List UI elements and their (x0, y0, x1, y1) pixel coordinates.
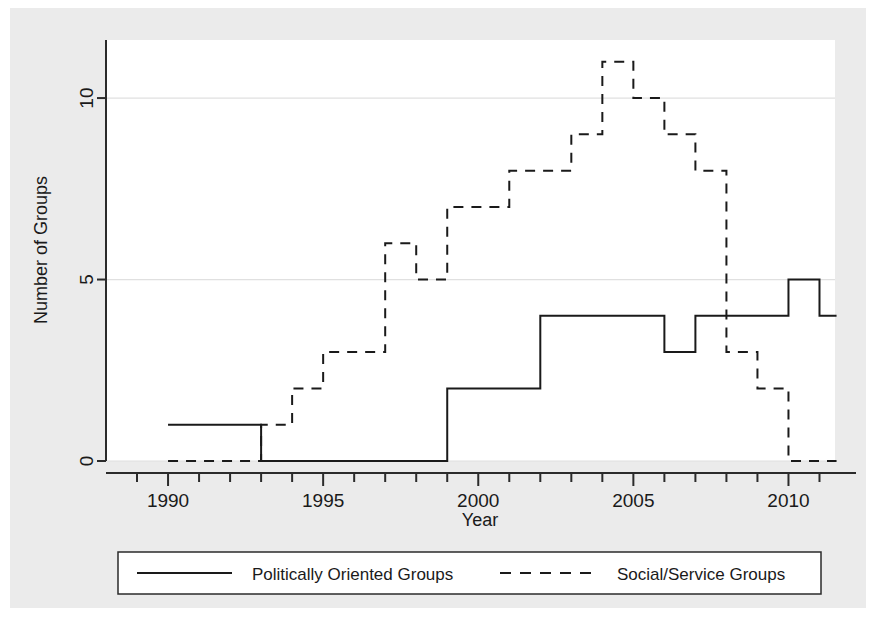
x-tick-label: 1990 (147, 490, 189, 511)
y-axis-ticks (97, 98, 106, 461)
plot-wrapper: 0510 19901995200020052010 Year Number of… (0, 0, 876, 623)
x-axis-ticks (137, 473, 819, 486)
figure-container: 0510 19901995200020052010 Year Number of… (0, 0, 876, 623)
y-tick-label: 10 (76, 87, 97, 108)
x-axis-tick-labels: 19901995200020052010 (147, 490, 810, 511)
chart-svg: 0510 19901995200020052010 Year Number of… (0, 0, 876, 623)
x-tick-label: 1995 (302, 490, 344, 511)
y-axis-title: Number of Groups (31, 176, 51, 324)
x-tick-label: 2000 (457, 490, 499, 511)
legend-label-politically-oriented-groups: Politically Oriented Groups (252, 565, 453, 584)
x-axis-title: Year (462, 510, 498, 530)
x-tick-label: 2010 (767, 490, 809, 511)
y-tick-label: 0 (76, 456, 97, 467)
legend: Politically Oriented Groups Social/Servi… (118, 552, 821, 594)
plot-panel (106, 40, 835, 461)
x-tick-label: 2005 (612, 490, 654, 511)
legend-label-social-service-groups: Social/Service Groups (617, 565, 785, 584)
y-tick-label: 5 (76, 274, 97, 285)
y-axis-tick-labels: 0510 (76, 87, 97, 466)
